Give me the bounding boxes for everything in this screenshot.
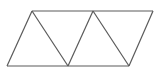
geometric-figure-parallelogram <box>0 0 160 74</box>
